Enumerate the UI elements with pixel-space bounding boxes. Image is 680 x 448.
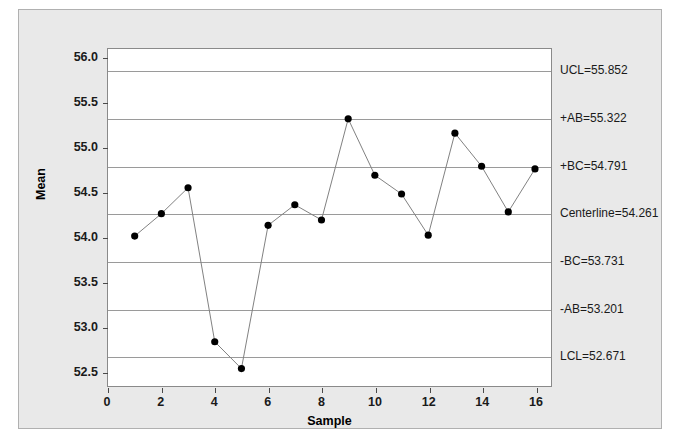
- control-limit-label-xab: +AB=55.322: [560, 111, 627, 125]
- control-limit-label-centerline: Centerline=54.261: [560, 206, 658, 220]
- series-markers: [131, 115, 538, 372]
- control-limit-label-xab: -AB=53.201: [560, 302, 624, 316]
- x-axis-title: Sample: [107, 414, 552, 428]
- y-axis-title: Mean: [34, 168, 48, 200]
- x-axis-tick-label: 6: [264, 395, 271, 409]
- plot-area: [107, 48, 552, 387]
- y-axis-tick-label: 53.5: [74, 275, 98, 289]
- x-tick-mark: [376, 388, 377, 393]
- data-point: [131, 232, 138, 239]
- x-axis-tick-label: 10: [368, 395, 382, 409]
- y-axis-tick-label: 52.5: [74, 365, 98, 379]
- x-axis-tick-label: 12: [422, 395, 436, 409]
- x-tick-mark: [322, 388, 323, 393]
- y-axis-tick-label: 55.5: [74, 95, 98, 109]
- data-point: [398, 190, 405, 197]
- x-tick-mark: [215, 388, 216, 393]
- data-series: [108, 49, 551, 386]
- data-point: [451, 130, 458, 137]
- data-point: [531, 165, 538, 172]
- y-axis-tick-label: 54.0: [74, 230, 98, 244]
- data-point: [211, 338, 218, 345]
- x-tick-mark: [430, 388, 431, 393]
- data-point: [371, 172, 378, 179]
- x-tick-mark: [537, 388, 538, 393]
- y-axis-tick-label: 54.5: [74, 185, 98, 199]
- x-axis-tick-label: 0: [104, 395, 111, 409]
- y-axis-tick-label: 55.0: [74, 140, 98, 154]
- x-axis-tick-label: 16: [529, 395, 543, 409]
- chart-panel: Mean Sample UCL=55.852+AB=55.322+BC=54.7…: [18, 9, 662, 429]
- y-axis-tick-label: 53.0: [74, 320, 98, 334]
- x-tick-mark: [162, 388, 163, 393]
- control-limit-label-lcl: LCL=52.671: [560, 349, 626, 363]
- data-point: [291, 201, 298, 208]
- data-point: [425, 232, 432, 239]
- control-chart-screenshot: Mean Sample UCL=55.852+AB=55.322+BC=54.7…: [0, 0, 680, 448]
- x-tick-mark: [108, 388, 109, 393]
- x-tick-mark: [483, 388, 484, 393]
- data-point: [318, 216, 325, 223]
- data-point: [265, 222, 272, 229]
- data-point: [238, 365, 245, 372]
- data-point: [478, 163, 485, 170]
- data-point: [505, 208, 512, 215]
- y-axis-tick-label: 56.0: [74, 50, 98, 64]
- x-tick-mark: [269, 388, 270, 393]
- x-axis-tick-label: 2: [157, 395, 164, 409]
- control-limit-label-xbc: -BC=53.731: [560, 254, 624, 268]
- data-point: [158, 210, 165, 217]
- series-line: [135, 119, 535, 369]
- plot-inner: [108, 49, 551, 386]
- control-limit-label-xbc: +BC=54.791: [560, 159, 627, 173]
- x-axis-tick-label: 14: [475, 395, 489, 409]
- data-point: [345, 115, 352, 122]
- data-point: [184, 184, 191, 191]
- x-axis-tick-label: 8: [318, 395, 325, 409]
- x-axis-tick-label: 4: [211, 395, 218, 409]
- control-limit-label-ucl: UCL=55.852: [560, 63, 628, 77]
